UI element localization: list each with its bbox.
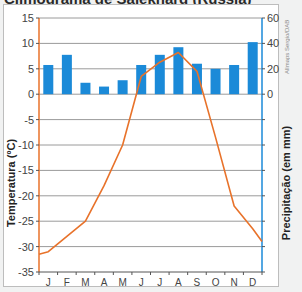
- right-tick-label: 20: [267, 63, 279, 75]
- month-label: S: [194, 277, 201, 288]
- right-tick-label: 60: [267, 12, 279, 24]
- month-label: A: [175, 277, 182, 288]
- gridlines: [39, 18, 262, 247]
- precipitation-bar: [229, 65, 239, 94]
- right-tick-label: 40: [267, 37, 279, 49]
- precipitation-bar: [62, 55, 72, 94]
- left-tick-label: -5: [24, 114, 34, 126]
- month-label: M: [118, 277, 126, 288]
- left-tick-label: -10: [18, 139, 34, 151]
- left-tick-label: -20: [18, 190, 34, 202]
- month-label: N: [231, 277, 238, 288]
- left-tick-label: 5: [28, 63, 34, 75]
- left-axis-title: Temperatura (ºC): [5, 139, 17, 227]
- left-tick-label: -15: [18, 164, 34, 176]
- left-tick-label: -30: [18, 241, 34, 253]
- right-axis-title: Precipitação (em mm): [280, 126, 292, 241]
- precipitation-bars: [43, 42, 257, 94]
- climograph: 151050-5-10-15-20-25-30-356040200JFMAMJJ…: [0, 0, 302, 292]
- precipitation-bar: [118, 80, 128, 94]
- right-tick-label: 0: [267, 88, 273, 100]
- precipitation-bar: [248, 42, 258, 94]
- month-label: M: [81, 277, 89, 288]
- precipitation-bar: [43, 65, 53, 94]
- month-label: J: [46, 277, 51, 288]
- left-tick-label: -25: [18, 215, 34, 227]
- month-label: O: [212, 277, 220, 288]
- month-label: J: [157, 277, 162, 288]
- month-label: J: [139, 277, 144, 288]
- left-tick-label: 15: [22, 12, 34, 24]
- temperature-polyline: [39, 53, 262, 255]
- month-label: F: [64, 277, 70, 288]
- precipitation-bar: [211, 69, 221, 94]
- left-tick-label: 0: [28, 88, 34, 100]
- left-tick-label: -35: [18, 266, 34, 278]
- precipitation-bar: [99, 87, 109, 95]
- month-label: A: [101, 277, 108, 288]
- precipitation-bar: [80, 83, 90, 94]
- left-tick-label: 10: [22, 37, 34, 49]
- month-label: D: [249, 277, 256, 288]
- temperature-line: [39, 53, 262, 255]
